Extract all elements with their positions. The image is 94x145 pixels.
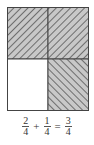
fraction-three-fourths: 3 4: [65, 116, 72, 137]
cell-top-right-shaded: [48, 8, 89, 60]
equals-sign: =: [55, 120, 61, 132]
denominator: 4: [23, 127, 28, 137]
fraction-equation: 2 4 + 1 4 = 3 4: [0, 114, 94, 138]
plus-sign: +: [33, 120, 39, 132]
numerator: 1: [45, 116, 50, 126]
fraction-one-fourth: 1 4: [44, 116, 51, 137]
cell-top-left-shaded: [8, 8, 49, 60]
numerator: 2: [23, 116, 28, 126]
cell-bottom-left-empty: [8, 59, 49, 111]
cell-bottom-right-shaded: [48, 59, 89, 111]
denominator: 4: [45, 127, 50, 137]
fraction-two-fourths: 2 4: [22, 116, 29, 137]
numerator: 3: [66, 116, 71, 126]
fraction-grid: [7, 7, 89, 111]
denominator: 4: [66, 127, 71, 137]
